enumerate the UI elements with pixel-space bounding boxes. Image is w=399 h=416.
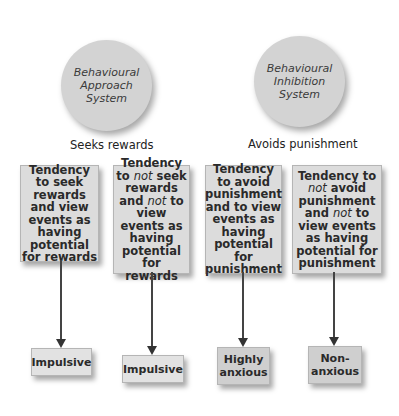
arrow-head-2	[147, 346, 157, 355]
outcome-label-1: Impulsive	[32, 356, 92, 369]
bis-circle: Behavioural Inhibition System	[254, 36, 345, 127]
arrow-line-4	[333, 272, 335, 338]
bas-label: Behavioural Approach System	[74, 66, 140, 105]
tendency-text-3: Tendency to avoid punishment and to view…	[205, 163, 282, 276]
outcome-label-3: Highly anxious	[219, 353, 267, 379]
outcome-box-2: Impulsive	[122, 355, 184, 383]
tendency-text-4: Tendency to not avoid punishment and not…	[293, 170, 381, 270]
tendency-box-3: Tendency to avoid punishment and to view…	[205, 165, 282, 274]
tendency-text-2: Tendency to not seek rewards and not to …	[114, 157, 189, 282]
arrow-line-2	[151, 272, 153, 347]
seeks-rewards-label: Seeks rewards	[70, 138, 154, 152]
tendency-box-4: Tendency to not avoid punishment and not…	[292, 165, 382, 274]
arrow-line-1	[60, 260, 62, 340]
bas-circle: Behavioural Approach System	[61, 40, 152, 131]
outcome-box-4: Non- anxious	[308, 346, 362, 384]
arrow-head-3	[238, 338, 248, 347]
tendency-box-2: Tendency to not seek rewards and not to …	[113, 165, 190, 274]
arrow-head-1	[56, 339, 66, 348]
outcome-box-1: Impulsive	[31, 348, 92, 376]
tendency-text-1: Tendency to seek rewards and view events…	[21, 164, 98, 264]
outcome-label-4: Non- anxious	[311, 352, 359, 378]
arrow-head-4	[329, 337, 339, 346]
bis-label: Behavioural Inhibition System	[267, 62, 333, 101]
avoids-punishment-label: Avoids punishment	[248, 137, 358, 151]
outcome-label-2: Impulsive	[123, 363, 183, 376]
arrow-line-3	[242, 272, 244, 339]
outcome-box-3: Highly anxious	[217, 347, 270, 385]
tendency-box-1: Tendency to seek rewards and view events…	[20, 165, 99, 262]
